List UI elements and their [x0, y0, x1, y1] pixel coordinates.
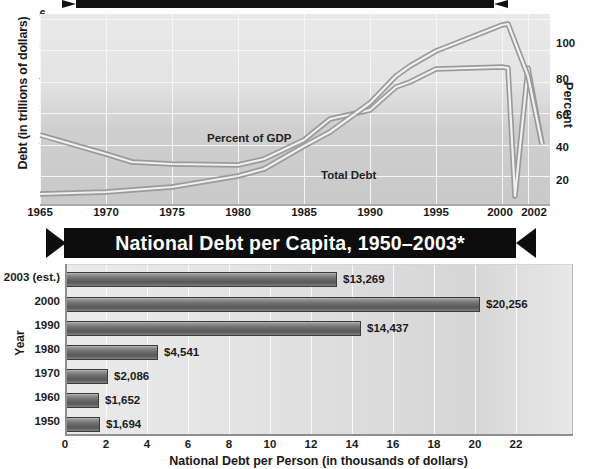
bar-2000[interactable]	[65, 297, 480, 312]
top-banner-truncated	[76, 0, 494, 8]
bar-gridline-14	[352, 265, 353, 435]
bar-gridline-16	[393, 265, 394, 435]
bar-category-1960: 1960	[0, 391, 60, 403]
bar-value-1950: $1,694	[106, 418, 141, 430]
bar-category-2000: 2000	[0, 295, 60, 307]
bar-gridline-22	[516, 265, 517, 435]
bar-1970[interactable]	[65, 369, 108, 384]
line-chart-xtick-1990: 1990	[348, 206, 392, 218]
banner-left-arrow-icon	[46, 228, 66, 258]
line-chart-ytick-right-20: 20	[556, 174, 582, 186]
bar-chart-title: National Debt per Capita, 1950–2003*	[115, 232, 465, 255]
bar-chart-y-axis	[65, 264, 67, 434]
line-chart-xtick-2002: 2002	[512, 206, 556, 218]
bar-value-1960: $1,652	[105, 394, 140, 406]
line-chart-ytick-right-80: 80	[556, 73, 582, 85]
banner-left-notch-icon	[62, 0, 76, 8]
bar-chart-title-banner: National Debt per Capita, 1950–2003*	[0, 228, 601, 260]
line-chart-y-axis-label-left: Debt (in trillions of dollars)	[16, 8, 30, 178]
bar-1950[interactable]	[65, 417, 100, 432]
bar-gridline-12	[311, 265, 312, 435]
bar-value-1970: $2,086	[114, 370, 149, 382]
line-chart-series-svg	[40, 14, 550, 204]
line-chart-xtick-1985: 1985	[282, 206, 326, 218]
bar-1980[interactable]	[65, 345, 158, 360]
bar-value-1990: $14,437	[367, 322, 409, 334]
bar-xtick-8: 8	[216, 438, 242, 450]
line-chart: Debt (in trillions of dollars) Percent 6…	[0, 8, 601, 222]
bar-chart-x-axis-label: National Debt per Person (in thousands o…	[65, 454, 572, 468]
bar-category-2003: 2003 (est.)	[0, 271, 60, 283]
bar-xtick-22: 22	[503, 438, 529, 450]
bar-xtick-4: 4	[134, 438, 160, 450]
bar-value-2000: $20,256	[486, 298, 528, 310]
bar-chart: Year $13,269 $20,256 $14,437 $4,541 $2,0…	[0, 260, 601, 469]
bar-2003[interactable]	[65, 272, 337, 287]
bar-category-1990: 1990	[0, 319, 60, 331]
bar-xtick-6: 6	[175, 438, 201, 450]
bar-xtick-12: 12	[298, 438, 324, 450]
bar-xtick-2: 2	[93, 438, 119, 450]
bar-xtick-18: 18	[421, 438, 447, 450]
bar-gridline-8	[229, 265, 230, 435]
bar-value-1980: $4,541	[164, 346, 199, 358]
bar-xtick-14: 14	[339, 438, 365, 450]
bar-gridline-20	[475, 265, 476, 435]
line-chart-plot-area: Percent of GDP Total Debt	[40, 14, 550, 204]
bar-value-2003: $13,269	[343, 273, 385, 285]
series-label-percent-of-gdp: Percent of GDP	[207, 132, 291, 144]
line-chart-xtick-1980: 1980	[216, 206, 260, 218]
bar-xtick-20: 20	[462, 438, 488, 450]
bar-1990[interactable]	[65, 321, 361, 336]
line-chart-ytick-right-40: 40	[556, 141, 582, 153]
bar-gridline-10	[270, 265, 271, 435]
bar-category-1950: 1950	[0, 415, 60, 427]
line-chart-xtick-1970: 1970	[84, 206, 128, 218]
line-chart-ytick-right-60: 60	[556, 109, 582, 121]
bar-category-1970: 1970	[0, 367, 60, 379]
bar-xtick-16: 16	[380, 438, 406, 450]
bar-chart-x-axis	[65, 434, 573, 436]
bar-chart-plot-area: $13,269 $20,256 $14,437 $4,541 $2,086 $1…	[65, 264, 573, 435]
series-total-debt	[40, 24, 542, 194]
banner-right-arrow-icon	[516, 228, 536, 258]
bar-xtick-10: 10	[257, 438, 283, 450]
line-chart-ytick-right-100: 100	[556, 37, 582, 49]
bar-gridline-18	[434, 265, 435, 435]
line-chart-xtick-1965: 1965	[18, 206, 62, 218]
bar-category-1980: 1980	[0, 343, 60, 355]
series-label-total-debt: Total Debt	[321, 169, 376, 181]
banner-right-notch-icon	[494, 0, 508, 8]
line-chart-xtick-1975: 1975	[150, 206, 194, 218]
line-chart-xtick-1995: 1995	[414, 206, 458, 218]
bar-xtick-0: 0	[52, 438, 78, 450]
bar-1960[interactable]	[65, 393, 99, 408]
